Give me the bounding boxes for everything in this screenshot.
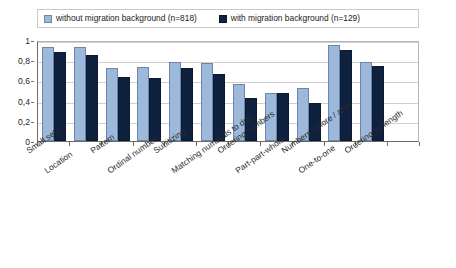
y-tick-mark [31,81,34,82]
y-tick-mark [31,122,34,123]
bar-group [102,42,134,141]
bar-group [70,42,102,141]
y-tick-label: 0,4 [18,97,30,106]
bar-without-migration [74,47,86,141]
x-axis-labels: Small setsLocationPatternOrdinal numberS… [0,146,456,268]
y-tick-label: 0,2 [18,118,30,127]
bar-with-migration [86,55,98,141]
legend-swatch-icon-dark [219,15,227,23]
legend-label-with-migration: with migration background (n=129) [231,14,360,22]
bar-with-migration [149,78,161,141]
bar-with-migration [340,50,352,141]
bar-without-migration [137,67,149,141]
bar-group [133,42,165,141]
bar-group [324,42,356,141]
bar-group [197,42,229,141]
y-tick-mark [31,61,34,62]
y-tick-label: 1 [25,37,30,46]
bar-without-migration [201,63,213,141]
y-tick-label: 0,8 [18,57,30,66]
y-tick-label: 0,6 [18,77,30,86]
bar-with-migration [277,93,289,141]
legend-swatch-icon-light [44,15,52,23]
bar-group [261,42,293,141]
chart-legend: without migration background (n=818) wit… [37,9,419,28]
x-axis-label: Location [43,150,74,175]
legend-label-without-migration: without migration background (n=818) [56,14,197,22]
legend-entry-without-migration: without migration background (n=818) [44,14,197,22]
bar-with-migration [118,77,130,141]
legend-entry-with-migration: with migration background (n=129) [219,14,360,22]
bar-without-migration [106,68,118,141]
y-tick-mark [31,41,34,42]
bar-group-empty [388,42,419,141]
bar-chart: without migration background (n=818) wit… [0,0,456,268]
y-axis: 00,20,40,60,81 [0,41,34,142]
y-tick-mark [31,102,34,103]
bar-without-migration [328,45,340,141]
x-axis-label: One-to-one [297,144,337,175]
